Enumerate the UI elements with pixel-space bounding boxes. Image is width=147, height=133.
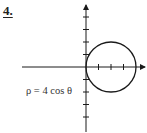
equation-label: ρ = 4 cos θ: [26, 85, 72, 96]
polar-graph: [0, 0, 147, 133]
